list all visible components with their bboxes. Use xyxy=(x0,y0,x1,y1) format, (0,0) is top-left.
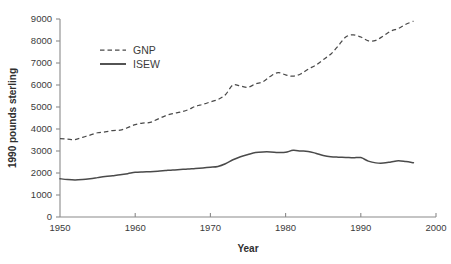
y-tick-label: 0 xyxy=(47,211,52,222)
x-axis-ticks xyxy=(135,213,436,217)
y-axis: 0100020003000400050006000700080009000 xyxy=(31,13,60,222)
chart-container: 0100020003000400050006000700080009000 19… xyxy=(0,0,451,264)
x-axis: 195019601970198019902000 xyxy=(49,213,446,233)
chart-legend: GNP ISEW xyxy=(100,44,160,70)
x-axis-title: Year xyxy=(237,243,258,254)
line-chart: 0100020003000400050006000700080009000 19… xyxy=(0,0,451,264)
x-tick-label: 2000 xyxy=(425,222,446,233)
y-tick-label: 2000 xyxy=(31,167,52,178)
legend-label-isew: ISEW xyxy=(133,58,160,70)
y-tick-label: 1000 xyxy=(31,189,52,200)
y-tick-label: 8000 xyxy=(31,35,52,46)
y-tick-label: 9000 xyxy=(31,13,52,24)
x-tick-label: 1970 xyxy=(200,222,221,233)
series-line-isew xyxy=(60,150,413,180)
data-series-group xyxy=(60,21,413,180)
y-tick-label: 3000 xyxy=(31,145,52,156)
y-axis-title: 1990 pounds sterling xyxy=(7,68,18,168)
y-tick-label: 4000 xyxy=(31,123,52,134)
y-axis-ticks xyxy=(56,19,60,217)
y-axis-tick-labels: 0100020003000400050006000700080009000 xyxy=(31,13,52,222)
y-tick-label: 6000 xyxy=(31,79,52,90)
legend-label-gnp: GNP xyxy=(133,44,156,56)
x-axis-tick-labels: 195019601970198019902000 xyxy=(49,222,446,233)
series-line-gnp xyxy=(60,21,413,139)
y-tick-label: 7000 xyxy=(31,57,52,68)
x-tick-label: 1960 xyxy=(125,222,146,233)
x-tick-label: 1990 xyxy=(350,222,371,233)
y-tick-label: 5000 xyxy=(31,101,52,112)
x-tick-label: 1980 xyxy=(275,222,296,233)
x-tick-label: 1950 xyxy=(49,222,70,233)
